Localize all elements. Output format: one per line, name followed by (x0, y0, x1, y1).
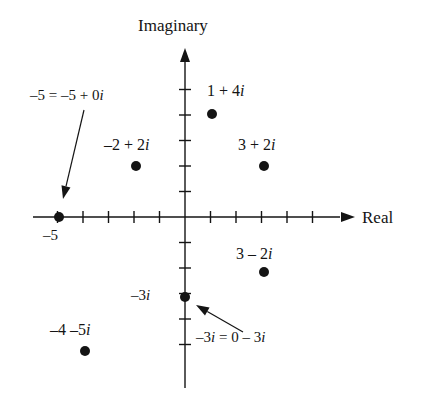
lbl-3minus2i: 3 – 2i (236, 246, 272, 262)
imaginary-axis-title: Imaginary (138, 17, 208, 34)
lbl-neg2plus2i: –2 + 2i (104, 137, 149, 153)
tick-label-real-neg5: –5 (43, 228, 58, 243)
plotted-point-p-neg4minus5i[interactable] (80, 346, 90, 356)
lbl-1plus4i: 1 + 4i (207, 83, 244, 99)
annot-neg5-text: –5 = –5 + 0i (30, 88, 104, 103)
annotation-arrows-group (62, 110, 243, 332)
plotted-point-p-3plus2i[interactable] (259, 161, 269, 171)
real-axis-title: Real (362, 209, 393, 226)
tick-label-imaginary-neg3: –3i (131, 288, 150, 303)
real-axis-arrowhead (341, 212, 355, 222)
imaginary-axis-arrowhead (180, 48, 190, 62)
plotted-point-p-3minus2i[interactable] (259, 267, 269, 277)
annot-neg3i-text: –3i = 0 – 3i (196, 330, 265, 345)
annotation-arrow-shaft (66, 110, 84, 186)
complex-plane-figure: Imaginary Real –5–3i 1 + 4i–2 + 2i3 + 2i… (0, 0, 422, 402)
lbl-neg4minus5i: –4 –5i (50, 322, 90, 338)
plotted-points-group (54, 109, 269, 356)
annotation-arrowhead (196, 305, 210, 315)
annotation-arrowhead (62, 185, 71, 199)
plotted-point-p-1plus4i[interactable] (207, 109, 217, 119)
plotted-point-p-neg3i[interactable] (180, 292, 190, 302)
lbl-3plus2i: 3 + 2i (238, 137, 275, 153)
plotted-point-p-neg2plus2i[interactable] (131, 161, 141, 171)
plotted-point-p-neg5[interactable] (54, 212, 64, 222)
